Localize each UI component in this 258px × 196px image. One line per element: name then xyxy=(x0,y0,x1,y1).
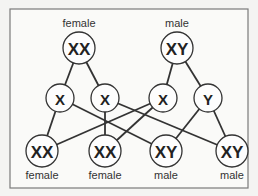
offspring-node: XXfemale xyxy=(25,135,58,181)
offspring-genotype: XX xyxy=(31,143,54,162)
offspring-sex-label: male xyxy=(154,169,178,181)
offspring-genotype: XY xyxy=(221,143,244,162)
inheritance-diagram: XXfemaleXYmaleXXXYXXfemaleXXfemaleXYmale… xyxy=(0,0,258,196)
gamete-genotype: X xyxy=(100,91,110,108)
offspring-node: XYmale xyxy=(216,135,248,181)
gamete-node: X xyxy=(46,84,74,112)
gamete-genotype: X xyxy=(55,91,65,108)
gamete-node: Y xyxy=(194,84,222,112)
parent-node: XYmale xyxy=(161,17,193,64)
parent-sex-label: male xyxy=(165,17,189,29)
offspring-node: XXfemale xyxy=(88,135,121,181)
offspring-sex-label: male xyxy=(220,169,244,181)
offspring-genotype: XY xyxy=(155,143,178,162)
gamete-genotype: X xyxy=(158,91,168,108)
gamete-genotype: Y xyxy=(203,91,213,108)
offspring-sex-label: female xyxy=(88,169,121,181)
gamete-node: X xyxy=(91,84,119,112)
parent-node: XXfemale xyxy=(62,17,95,64)
offspring-node: XYmale xyxy=(150,135,182,181)
parent-sex-label: female xyxy=(62,17,95,29)
offspring-genotype: XX xyxy=(94,143,117,162)
parent-genotype: XY xyxy=(166,40,189,59)
gamete-node: X xyxy=(149,84,177,112)
offspring-sex-label: female xyxy=(25,169,58,181)
parent-genotype: XX xyxy=(68,40,91,59)
